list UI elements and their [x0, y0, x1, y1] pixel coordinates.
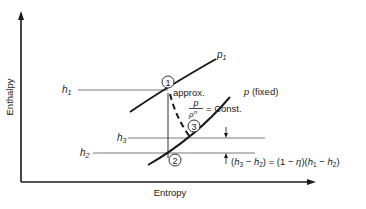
state-point-2-label: 2	[172, 156, 177, 166]
polytropic-numerator: p	[192, 98, 198, 108]
y-axis-arrow-icon	[18, 11, 24, 20]
p-fixed-curve-label: p (fixed)	[243, 86, 278, 97]
h3-label: h3	[117, 132, 127, 144]
x-axis-label: Entropy	[154, 187, 187, 198]
p1-curve-label: p1	[216, 49, 227, 61]
h1-label: h1	[62, 84, 72, 96]
enthalpy-difference-marker	[224, 127, 228, 164]
state-point-3: 3	[188, 120, 200, 132]
state-point-3-label: 3	[191, 122, 196, 132]
enthalpy-entropy-diagram: Entropy Enthalpy h1 h3 h2 p1 p (fixed) 1…	[0, 0, 366, 209]
dimension-up-arrow-icon	[224, 153, 228, 158]
polytropic-path	[170, 94, 190, 137]
approx-label: approx.	[173, 87, 205, 98]
polytropic-denominator: ρn	[188, 109, 198, 119]
y-axis-label: Enthalpy	[4, 78, 15, 115]
state-point-1-label: 1	[165, 78, 170, 88]
x-axis-arrow-icon	[307, 179, 316, 185]
polytropic-rhs: = Const.	[206, 103, 242, 114]
dimension-down-arrow-icon	[224, 133, 228, 138]
state-point-2: 2	[169, 154, 181, 166]
h2-label: h2	[80, 147, 90, 159]
polytropic-relation: p ρn = Const.	[188, 98, 242, 119]
efficiency-relation: (h3 − h2) = (1 − η)(h1 − h2)	[231, 156, 340, 168]
